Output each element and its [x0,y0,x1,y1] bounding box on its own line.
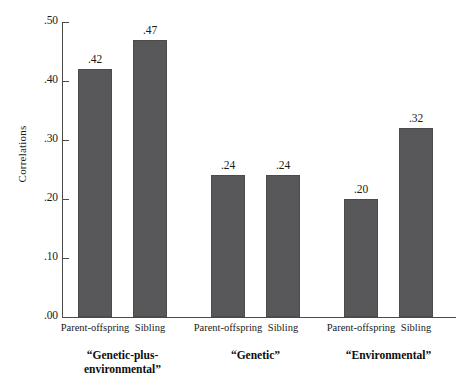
y-axis-tick-label: .40 [26,73,58,85]
bar [344,199,378,317]
bar [399,128,433,317]
x-axis-line [62,317,456,318]
bar [211,175,245,317]
bar [78,69,112,317]
y-axis-tick [62,140,69,141]
y-axis-tick [62,22,69,23]
y-axis-tick-label: .30 [26,132,58,144]
group-label-line: environmental” [33,362,213,376]
y-axis-tick [62,199,69,200]
y-axis-tick [62,81,69,82]
y-axis-tick [62,258,69,259]
bar-chart-figure: Correlations .00.10.20.30.40.50 .42Paren… [0,0,468,389]
y-axis-tick-label: .10 [26,250,58,262]
y-axis-tick-label: .00 [26,309,58,321]
y-axis-tick-label: .50 [26,14,58,26]
group-label-line: “Environmental” [299,348,468,362]
bar-value-label: .47 [120,24,180,36]
x-axis-group-label: “Environmental” [299,348,468,362]
bar-value-label: .42 [65,53,125,65]
y-axis-line [62,22,63,317]
bar-value-label: .32 [386,112,446,124]
bar [133,40,167,317]
bar-value-label: .24 [253,159,313,171]
y-axis-tick-label: .20 [26,191,58,203]
x-axis-category-label: Sibling [366,322,466,333]
bar-value-label: .24 [198,159,258,171]
y-axis-tick [62,317,69,318]
bar [266,175,300,317]
bar-value-label: .20 [331,183,391,195]
